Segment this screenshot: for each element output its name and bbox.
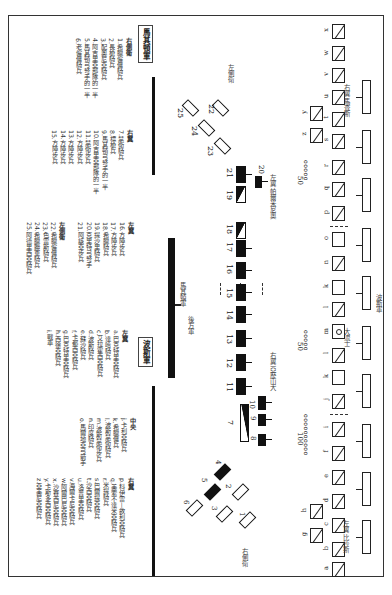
persian-left-wing-legend: 左翼 a.巴克特里亞騎兵 b.達哈騎兵 c.艾拉霍西亞騎兵 d.波斯騎兵 e.蘇… <box>40 330 128 378</box>
legend-item: 12.方陣步兵 <box>75 130 83 194</box>
legend-heading: 左翼 <box>126 222 134 268</box>
unit-number-25: 25 <box>176 108 185 118</box>
persian-unit-j <box>332 394 345 409</box>
persian-unit-letter: i <box>322 426 330 428</box>
persian-unit-letter: m <box>322 328 330 334</box>
persian-unit-letter: r <box>322 164 330 167</box>
diagonal-mark <box>312 528 323 543</box>
reserve-stub <box>356 245 362 246</box>
persian-unit-letter: b <box>322 546 330 550</box>
rear-army-label: 後方軍 <box>186 316 195 334</box>
legend-item: 9.馬其頓弓弩手的一半 <box>100 130 108 194</box>
unit-14 <box>236 306 246 323</box>
persian-unit-letter: d <box>322 498 330 502</box>
unit-number-24: 24 <box>190 126 199 136</box>
diagonal-mark <box>334 182 345 197</box>
unit-number-18: 18 <box>225 224 234 234</box>
persian-reserve-unit <box>362 276 371 310</box>
persian-unit-n <box>332 256 345 271</box>
diagonal-mark <box>334 302 345 317</box>
diagonal-mark <box>334 348 345 363</box>
diagonal-mark <box>334 562 345 577</box>
persian-unit-f <box>332 446 345 461</box>
persian-unit-d <box>332 494 345 509</box>
legend-item: x.沙賽西尼亞騎兵 <box>51 478 59 538</box>
legend-item: 2.長槍騎兵 <box>107 38 115 98</box>
left-wing-bessus-label: 左翼 比沙斯 <box>341 520 350 552</box>
persian-reserve-unit <box>362 326 371 360</box>
persian-unit-letter: y <box>300 110 308 114</box>
persian-unit-h <box>310 504 323 519</box>
persian-unit-letter: n <box>322 260 330 264</box>
unit-number-14: 14 <box>225 310 234 320</box>
unit-number-22: 22 <box>207 104 216 114</box>
legend-item: j.卡利亞騎兵 <box>119 418 127 466</box>
reserve-stub <box>356 343 362 344</box>
diagonal-mark <box>312 128 323 143</box>
unit-number-2: 2 <box>224 484 232 488</box>
persian-wing-divider <box>330 414 348 415</box>
persian-unit-letter: o <box>322 236 330 240</box>
reserve-stub <box>356 489 362 490</box>
persian-unit-l <box>332 302 345 317</box>
macedonian-right-flank-legend: 右側衛 1.希臘僱傭騎兵 2.長槍騎兵 3.配奧尼亞騎兵 4.阿吉里亞部隊的一半… <box>52 38 132 98</box>
chariot-count-3: 100 <box>296 432 304 445</box>
persian-unit-letter: s <box>322 138 330 141</box>
legend-item: o.馬爾地亞弓箭手 <box>78 418 86 466</box>
diagonal-mark <box>334 422 345 437</box>
legend-item: h.西徐亞騎兵 <box>53 330 61 378</box>
legend-item: c.艾拉霍西亞騎兵 <box>95 330 103 378</box>
legend-heading: 左翼 <box>120 330 128 378</box>
persian-unit-a <box>332 562 345 577</box>
persian-legend-divider <box>152 386 155 576</box>
diagonal-mark <box>312 504 323 519</box>
unit-9 <box>258 414 266 426</box>
persian-unit-v <box>332 68 345 83</box>
diagonal-mark <box>334 256 345 271</box>
persian-center-legend: 中央 j.卡利亞騎兵 k.希臘傭兵 l.波斯禁衛騎兵 m.波斯禁衛步兵 n.印度… <box>74 418 136 466</box>
legend-item: k.希臘傭兵 <box>111 418 119 466</box>
legend-item: u.洛普里亞騎兵 <box>76 478 84 538</box>
persian-unit-letter: h <box>300 508 308 512</box>
unit-11 <box>236 378 246 395</box>
persian-unit-letter: f <box>322 450 330 452</box>
legend-item: 3.配奧尼亞騎兵 <box>99 38 107 98</box>
persian-unit-e <box>332 470 345 485</box>
unit-number-1: 1 <box>238 512 246 516</box>
reserve-stub <box>356 537 362 538</box>
right-wing-alexander-label: 右翼 亞歷山大 <box>268 352 277 390</box>
diagonal-mark <box>334 24 345 39</box>
chariot-group-1: ooooo <box>303 160 310 181</box>
rear-army-bar <box>168 238 175 378</box>
legend-heading: 中央 <box>128 418 136 466</box>
unit-20 <box>255 176 262 188</box>
legend-item: 8.標槍兵 <box>108 130 116 194</box>
unit-number-11: 11 <box>225 382 234 392</box>
unit-number-13: 13 <box>225 334 234 344</box>
unit-15 <box>236 284 246 301</box>
unit-18 <box>236 222 246 239</box>
legend-heading: 右側衛 <box>124 38 132 98</box>
persian-unit-letter: a <box>322 566 330 570</box>
reserve-stub <box>356 147 362 148</box>
legend-heading: 右翼 <box>126 478 134 538</box>
legend-item: 23.色雷斯騎兵 <box>41 222 49 274</box>
persian-unit-letter: l <box>322 352 330 354</box>
legend-item: 4.阿吉里亞部隊的一半 <box>91 38 99 98</box>
right-wing-mazaeus-label: 右翼 馬查斯 <box>342 84 351 116</box>
persian-unit-y <box>310 106 323 121</box>
persian-reserve-unit <box>362 374 371 408</box>
persian-unit-l <box>332 348 345 363</box>
king-circle-icon <box>336 329 342 335</box>
legend-item: 16.方陣步兵 <box>117 222 125 268</box>
legend-item: 24.希臘聯軍騎兵 <box>33 222 41 274</box>
persian-unit-s <box>332 134 345 149</box>
unit-7 <box>240 404 249 442</box>
legend-item: t.沙西亞騎兵 <box>84 478 92 538</box>
legend-item: a.巴克特里亞騎兵 <box>111 330 119 378</box>
persian-reserve-unit <box>362 80 371 114</box>
reserve-stub <box>356 391 362 392</box>
diagonal-mark <box>334 46 345 61</box>
persian-army-map-label: 波斯軍 <box>374 294 383 312</box>
unit-number-3: 3 <box>210 506 218 510</box>
